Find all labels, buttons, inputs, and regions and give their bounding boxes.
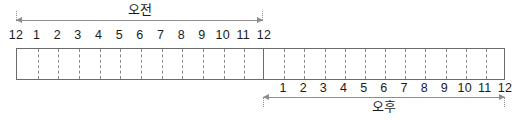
am-tick-label: 11 <box>237 28 251 42</box>
hour-divider <box>365 49 366 79</box>
pm-tick-label: 4 <box>340 81 347 95</box>
am-timeline-bar <box>16 48 264 80</box>
am-arrowhead-right-icon <box>257 17 263 23</box>
pm-timeline-bar <box>263 48 505 80</box>
hour-divider <box>486 49 487 79</box>
hour-divider <box>325 49 326 79</box>
pm-tick-label: 2 <box>300 81 307 95</box>
pm-tick-label: 6 <box>380 81 387 95</box>
timeline-diagram: 오전 12123456789101112 12123456789101112 오… <box>0 0 518 120</box>
am-tick-label: 9 <box>198 28 205 42</box>
am-tick-label: 4 <box>95 28 102 42</box>
am-tick-label: 8 <box>178 28 185 42</box>
hour-divider <box>120 49 121 79</box>
pm-tick-label: 9 <box>441 81 448 95</box>
hour-divider <box>100 49 101 79</box>
hour-divider <box>182 49 183 79</box>
am-tick-label: 12 <box>257 28 272 42</box>
hour-divider <box>203 49 204 79</box>
hour-divider <box>58 49 59 79</box>
hour-divider <box>141 49 142 79</box>
am-tick-label: 6 <box>136 28 143 42</box>
hour-divider <box>385 49 386 79</box>
pm-tick-label: 1 <box>280 81 287 95</box>
am-tick-label: 1 <box>33 28 40 42</box>
pm-arrowhead-right-icon <box>499 94 505 100</box>
am-period-caption: 오전 <box>128 2 152 17</box>
hour-divider <box>38 49 39 79</box>
pm-tick-label: 3 <box>320 81 327 95</box>
hour-divider <box>405 49 406 79</box>
hour-divider <box>425 49 426 79</box>
hour-divider <box>284 49 285 79</box>
pm-tick-label: 12 <box>498 81 513 95</box>
hour-divider <box>79 49 80 79</box>
am-arrowhead-left-icon <box>16 17 22 23</box>
hour-divider <box>304 49 305 79</box>
hour-divider <box>224 49 225 79</box>
pm-tick-label: 7 <box>401 81 408 95</box>
hour-divider <box>446 49 447 79</box>
am-tick-label: 2 <box>54 28 61 42</box>
am-tick-label: 5 <box>116 28 123 42</box>
hour-divider <box>244 49 245 79</box>
am-tick-label: 3 <box>74 28 81 42</box>
pm-period-caption: 오후 <box>372 99 396 114</box>
am-span-arrow <box>16 20 263 21</box>
pm-tick-label: 8 <box>421 81 428 95</box>
pm-arrowhead-left-icon <box>263 94 269 100</box>
am-tick-label: 7 <box>157 28 164 42</box>
pm-tick-label: 11 <box>478 81 492 95</box>
pm-tick-label: 10 <box>457 81 472 95</box>
am-tick-label: 10 <box>215 28 230 42</box>
pm-span-arrow <box>263 97 505 98</box>
hour-divider <box>466 49 467 79</box>
pm-tick-label: 5 <box>360 81 367 95</box>
hour-divider <box>162 49 163 79</box>
hour-divider <box>345 49 346 79</box>
am-tick-label: 12 <box>9 28 24 42</box>
